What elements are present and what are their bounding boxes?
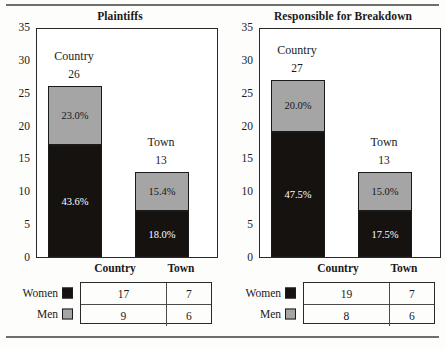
bar-total-label: 13 [378,154,390,166]
y-axis-ticks: 05101520253035 [223,28,257,258]
legend-row-label-men: Men [0,308,58,320]
bar-total-label: 27 [291,62,303,74]
y-axis-tick-label: 5 [24,219,30,231]
legend-column-header-town: Town [373,262,435,280]
y-axis-tick-label: 30 [19,55,31,67]
table-cell: 9 [81,305,166,327]
y-axis-tick-label: 25 [19,88,31,100]
bar-segment-women: 43.6% [48,145,102,257]
data-table: 19 7 8 6 [303,282,435,324]
bar-segment-men: 23.0% [48,86,102,145]
table-cell: 6 [166,305,211,327]
y-axis-ticks: 05101520253035 [0,28,34,258]
table-cell: 7 [166,283,211,305]
y-axis-tick-label: 15 [242,154,254,166]
legend-table: Country Town Women Men 19 7 8 6 [223,262,445,328]
y-axis-tick-label: 20 [242,121,254,133]
stacked-bar-town: 17.5%15.0% [358,172,412,257]
chart-panel-responsible-for-breakdown: Responsible for Breakdown 05101520253035… [223,0,445,336]
table-cell: 8 [304,305,389,327]
chart-title: Plaintiffs [20,10,220,22]
y-axis-tick-label: 10 [19,187,31,199]
table-cell: 7 [389,283,434,305]
men-swatch-icon [62,309,73,320]
stacked-bar-country: 43.6%23.0% [48,86,102,257]
y-axis-tick-label: 30 [242,55,254,67]
bar-segment-women: 47.5% [271,132,325,257]
plot-area: 47.5%20.0%17.5%15.0% [259,28,441,258]
y-axis-tick-label: 5 [247,219,253,231]
y-axis-tick-label: 10 [242,187,254,199]
bar-total-label: 13 [155,154,167,166]
men-swatch-icon [285,309,296,320]
figure-root: Plaintiffs 05101520253035 43.6%23.0%18.0… [0,0,445,349]
bar-segment-men: 15.0% [358,172,412,211]
table-cell: 19 [304,283,389,305]
chart-panel-plaintiffs: Plaintiffs 05101520253035 43.6%23.0%18.0… [0,0,222,336]
legend-row-label-men: Men [223,308,281,320]
bar-group-label: Town [147,135,174,150]
chart-title: Responsible for Breakdown [243,10,443,22]
bar-group-label: Country [54,49,93,64]
y-axis-tick-label: 15 [19,154,31,166]
y-axis-tick-label: 20 [19,121,31,133]
bar-segment-men: 20.0% [271,80,325,133]
y-axis-tick-label: 25 [242,88,254,100]
bar-segment-men: 15.4% [135,172,189,211]
table-cell: 6 [389,305,434,327]
table-row: 17 7 [81,283,211,305]
legend-table: Country Town Women Men 17 7 9 6 [0,262,222,328]
bar-group-label: Town [370,135,397,150]
bottom-rule [6,336,439,338]
data-table: 17 7 9 6 [80,282,212,324]
table-row: 8 6 [304,305,434,327]
legend-row-label-women: Women [223,287,281,299]
stacked-bar-town: 18.0%15.4% [135,172,189,257]
legend-row-label-women: Women [0,287,58,299]
bar-segment-women: 18.0% [135,211,189,257]
legend-column-header-town: Town [150,262,212,280]
table-cell: 17 [81,283,166,305]
legend-column-header-country: Country [303,262,373,280]
bar-group-label: Country [277,43,316,58]
women-swatch-icon [62,288,73,299]
women-swatch-icon [285,288,296,299]
table-row: 9 6 [81,305,211,327]
y-axis-tick-label: 35 [19,22,31,34]
stacked-bar-country: 47.5%20.0% [271,80,325,257]
table-row: 19 7 [304,283,434,305]
bar-segment-women: 17.5% [358,211,412,257]
legend-column-header-country: Country [80,262,150,280]
bar-total-label: 26 [68,68,80,80]
y-axis-tick-label: 35 [242,22,254,34]
